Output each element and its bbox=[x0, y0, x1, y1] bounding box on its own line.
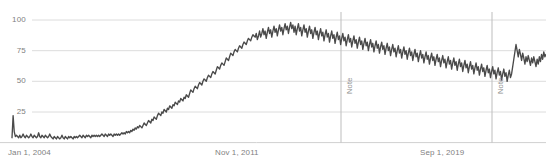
x-axis-tick-label-mid: Nov 1, 2011 bbox=[215, 148, 259, 157]
note-annotation-label-1[interactable]: Note bbox=[345, 77, 354, 94]
annotation-lines bbox=[341, 12, 492, 143]
gridlines bbox=[0, 20, 546, 143]
x-axis-tick-label-start: Jan 1, 2004 bbox=[8, 148, 51, 157]
y-axis-tick-label-100: 100 bbox=[0, 16, 26, 24]
x-axis-tick-label-end: Sep 1, 2019 bbox=[420, 148, 464, 157]
trends-line-chart: 100 75 50 25 Jan 1, 2004 Nov 1, 2011 Sep… bbox=[0, 0, 546, 166]
chart-plot-area bbox=[0, 0, 546, 166]
y-axis-tick-label-25: 25 bbox=[0, 108, 26, 116]
y-axis-tick-label-75: 75 bbox=[0, 47, 26, 55]
series-line-interest-over-time bbox=[12, 22, 546, 138]
y-axis-tick-label-50: 50 bbox=[0, 77, 26, 85]
note-annotation-label-2[interactable]: Note bbox=[496, 77, 505, 94]
